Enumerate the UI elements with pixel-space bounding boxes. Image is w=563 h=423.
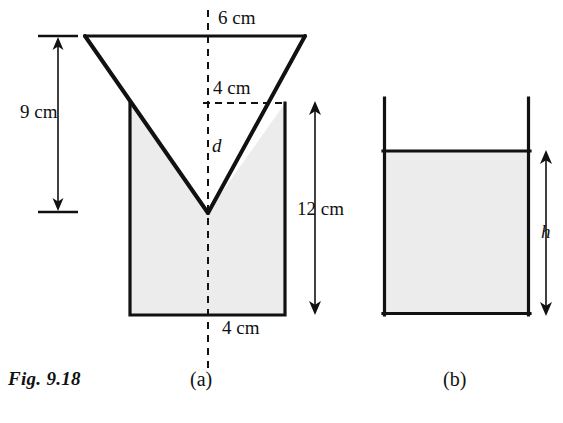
label-top-width: 6 cm (218, 8, 255, 27)
figure-9-18: 6 cm 9 cm 4 cm d 12 cm 4 cm h Fig. 9.18 … (0, 0, 563, 423)
label-inner-width: 4 cm (213, 78, 250, 97)
label-cone-height: 9 cm (20, 102, 57, 121)
liquid-shading-b (383, 150, 530, 315)
label-base-width: 4 cm (222, 318, 259, 337)
label-height-variable: h (541, 222, 551, 241)
label-vessel-height: 12 cm (297, 199, 344, 218)
figure-canvas (0, 0, 563, 423)
subfigure-label-b: (b) (443, 369, 466, 389)
figure-caption: Fig. 9.18 (8, 369, 81, 388)
subfigure-label-a: (a) (190, 369, 212, 389)
label-depth-variable: d (212, 136, 222, 155)
